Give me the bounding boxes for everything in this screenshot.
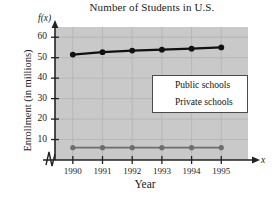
data-point <box>219 145 224 150</box>
y-tick-label: 30 <box>25 93 47 103</box>
legend: Public schools Private schools <box>152 75 248 113</box>
data-point <box>189 46 195 52</box>
y-tick-label: 60 <box>25 31 47 41</box>
x-tick-label: 1995 <box>201 166 241 176</box>
y-axis-arrow <box>52 20 59 28</box>
y-tick-label: 40 <box>25 72 47 82</box>
y-tick-label: 20 <box>25 113 47 123</box>
y-tick-label: 10 <box>25 134 47 144</box>
legend-label-private-schools: Private schools <box>175 97 233 107</box>
axis-break-symbol <box>46 152 55 166</box>
x-axis-arrow <box>252 157 260 164</box>
legend-label-public-schools: Public schools <box>175 80 230 90</box>
data-point <box>70 52 76 58</box>
data-point <box>159 145 164 150</box>
data-point <box>189 145 194 150</box>
y-tick-label: 50 <box>25 52 47 62</box>
legend-item-private-schools: Private schools <box>158 95 246 113</box>
chart-figure: Number of Students in U.S. Enrollment (i… <box>0 0 274 197</box>
data-point <box>70 145 75 150</box>
data-point <box>129 48 135 54</box>
data-point <box>100 145 105 150</box>
legend-item-public-schools: Public schools <box>158 78 246 96</box>
data-point <box>218 45 224 51</box>
data-point <box>159 47 165 53</box>
data-point <box>100 49 106 55</box>
data-point <box>130 145 135 150</box>
